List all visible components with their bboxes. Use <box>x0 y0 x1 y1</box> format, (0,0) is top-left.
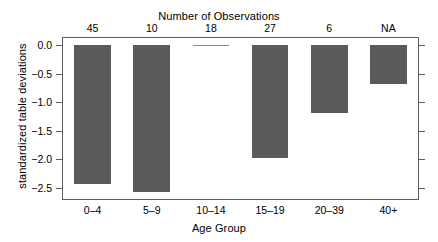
y-tick-label: −2.5 <box>0 183 52 193</box>
bar-40- <box>370 45 407 84</box>
bar-10-14 <box>193 45 230 46</box>
y-tick-label: −0.5 <box>0 69 52 79</box>
plot-area <box>63 38 418 199</box>
y-tick-right <box>419 159 425 160</box>
y-tick-right <box>419 188 425 189</box>
y-tick <box>56 74 62 75</box>
bar-5-9 <box>133 45 170 191</box>
x-tick-label: 20–39 <box>299 205 359 216</box>
bar-20-39 <box>311 45 348 112</box>
y-tick-right <box>419 102 425 103</box>
top-axis-value: NA <box>358 23 418 34</box>
y-tick-label: −1.0 <box>0 97 52 107</box>
y-tick <box>56 45 62 46</box>
top-axis-value: 10 <box>122 23 182 34</box>
x-tick-label: 10–14 <box>181 205 241 216</box>
top-axis-value: 6 <box>299 23 359 34</box>
bar-0-4 <box>74 45 111 183</box>
y-axis-title: standardized table deviations <box>16 31 28 201</box>
x-tick-label: 15–19 <box>240 205 300 216</box>
x-axis-title: Age Group <box>0 222 438 234</box>
y-tick-right <box>419 131 425 132</box>
y-tick <box>56 102 62 103</box>
bar-15-19 <box>252 45 289 158</box>
top-axis-value: 27 <box>240 23 300 34</box>
y-tick-right <box>419 74 425 75</box>
y-tick <box>56 188 62 189</box>
y-tick-label: 0.0 <box>0 40 52 50</box>
y-tick <box>56 159 62 160</box>
x-tick-label: 5–9 <box>122 205 182 216</box>
top-axis-value: 18 <box>181 23 241 34</box>
y-tick-right <box>419 45 425 46</box>
bar-chart: Number of Observations standardized tabl… <box>0 0 438 242</box>
y-tick-label: −1.5 <box>0 126 52 136</box>
x-tick-label: 0–4 <box>63 205 123 216</box>
top-axis-title: Number of Observations <box>0 10 438 22</box>
top-axis-value: 45 <box>63 23 123 34</box>
y-tick-label: −2.0 <box>0 154 52 164</box>
y-tick <box>56 131 62 132</box>
x-tick-label: 40+ <box>358 205 418 216</box>
